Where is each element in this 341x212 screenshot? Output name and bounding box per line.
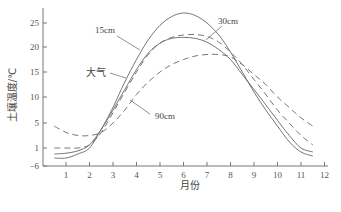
y-tick-label: 10 <box>30 92 40 102</box>
x-tick-label: 8 <box>228 170 233 180</box>
curves <box>54 13 313 158</box>
annotation-air: 大气 <box>86 66 126 78</box>
x-ticks: 123456789101112 <box>64 162 329 180</box>
x-tick-label: 4 <box>134 170 139 180</box>
y-tick-label: 20 <box>30 42 40 52</box>
x-tick-label: 2 <box>87 170 92 180</box>
y-tick-label: 15 <box>30 67 40 77</box>
label-15cm: 15cm <box>95 25 115 35</box>
label-30cm: 30cm <box>218 16 238 26</box>
y-tick-label: −6 <box>29 161 39 171</box>
annotation-30cm: 30cm <box>206 16 238 40</box>
annotation-15cm: 15cm <box>95 25 140 50</box>
y-tick-label: 25 <box>30 18 40 28</box>
x-tick-label: 11 <box>297 170 306 180</box>
leader-15cm <box>117 36 140 50</box>
leader-90cm <box>130 100 150 114</box>
leader-30cm <box>206 26 222 40</box>
label-90cm: 90cm <box>155 111 175 121</box>
x-tick-label: 12 <box>320 170 329 180</box>
x-tick-label: 7 <box>205 170 210 180</box>
curve-air <box>54 37 313 154</box>
x-tick-label: 5 <box>158 170 163 180</box>
x-tick-label: 3 <box>111 170 116 180</box>
x-tick-label: 1 <box>64 170 69 180</box>
x-tick-label: 6 <box>181 170 186 180</box>
soil-temperature-chart: −61510152025 123456789101112 土壤温度/℃ 月份 1… <box>0 0 341 212</box>
curve-30cm <box>54 34 313 148</box>
y-ticks: −61510152025 <box>29 18 47 171</box>
label-air: 大气 <box>86 66 106 78</box>
y-tick-label: 1 <box>35 143 40 153</box>
y-axis-label: 土壤温度/℃ <box>6 68 18 123</box>
annotation-90cm: 90cm <box>130 100 175 121</box>
y-tick-label: 5 <box>35 118 40 128</box>
x-tick-label: 9 <box>252 170 257 180</box>
leader-air <box>110 73 126 78</box>
x-tick-label: 10 <box>273 170 283 180</box>
axes <box>43 8 328 166</box>
x-axis-label: 月份 <box>180 180 200 191</box>
